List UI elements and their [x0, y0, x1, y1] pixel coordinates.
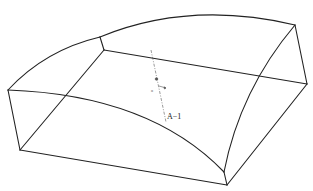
bottom-edge	[20, 150, 227, 185]
top-back-edge	[104, 50, 307, 84]
top-arc-right	[100, 15, 295, 37]
section-point	[155, 78, 158, 81]
angle-label: α	[151, 88, 153, 93]
joint-edge	[100, 37, 104, 50]
right-back-edge	[295, 25, 307, 84]
section-label: A−1	[167, 112, 181, 121]
arrow-head	[164, 87, 166, 89]
curved-block-diagram: α A−1	[0, 0, 313, 191]
top-arc-left	[8, 37, 100, 90]
front-short-edge	[224, 172, 227, 185]
front-arc	[8, 90, 224, 172]
bottom-right-diagonal	[227, 84, 307, 185]
section-axis-line	[151, 50, 166, 122]
right-inner-arc	[224, 25, 295, 172]
left-vertical-edge	[8, 90, 20, 150]
